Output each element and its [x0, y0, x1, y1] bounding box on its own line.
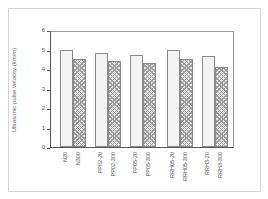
y-tick-mark — [47, 148, 50, 149]
x-tick-label: PP02-300 — [110, 152, 116, 176]
y-tick-label: 3 — [37, 86, 45, 92]
bar — [130, 55, 143, 147]
bar — [73, 59, 86, 147]
y-tick-label: 0 — [37, 144, 45, 150]
bar — [108, 61, 121, 147]
x-tick-label: N20 — [62, 152, 68, 162]
y-tick-label: 6 — [37, 27, 45, 33]
x-tick-label: PP05-20 — [132, 152, 138, 173]
y-tick-label: 5 — [37, 47, 45, 53]
plot-area — [50, 31, 234, 148]
bar — [215, 67, 228, 147]
y-axis-label: Ultrasonic pulse velocity (km/m) — [11, 48, 17, 133]
x-tick-label: RRH3-300 — [217, 152, 223, 178]
bar — [180, 59, 193, 147]
x-tick-label: RRH3-20 — [204, 152, 210, 175]
bar — [143, 63, 156, 147]
x-tick-label: PP05-300 — [145, 152, 151, 176]
y-tick-label: 4 — [37, 66, 45, 72]
y-tick-label: 1 — [37, 125, 45, 131]
bar — [167, 50, 180, 147]
x-tick-label: PP02-20 — [97, 152, 103, 173]
bar — [60, 50, 73, 147]
bar — [202, 56, 215, 147]
y-tick-label: 2 — [37, 105, 45, 111]
x-tick-label: RRH05-20 — [169, 152, 175, 178]
bar — [95, 53, 108, 147]
x-tick-label: RRH05-300 — [182, 152, 188, 181]
x-tick-label: N300 — [75, 152, 81, 165]
